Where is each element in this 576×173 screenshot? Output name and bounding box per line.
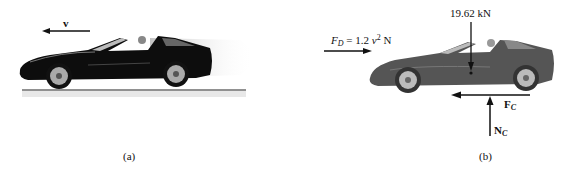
normal-force-label: NC bbox=[494, 124, 507, 138]
velocity-label: v bbox=[63, 17, 69, 29]
car-illustration-a bbox=[0, 0, 290, 173]
friction-force-label: FC bbox=[504, 98, 516, 112]
panel-a: v (a) bbox=[0, 0, 290, 173]
caption-a: (a) bbox=[123, 150, 135, 162]
drag-force-arrow bbox=[324, 48, 372, 54]
caption-b: (b) bbox=[479, 150, 492, 162]
normal-force-arrow bbox=[487, 96, 494, 136]
panel-b: FD = 1.2 v2 N 19.62 kN FC NC (b) bbox=[290, 0, 576, 173]
weight-label: 19.62 kN bbox=[450, 7, 491, 19]
drag-force-label: FD = 1.2 v2 N bbox=[331, 33, 391, 48]
free-body-diagram bbox=[290, 0, 576, 173]
